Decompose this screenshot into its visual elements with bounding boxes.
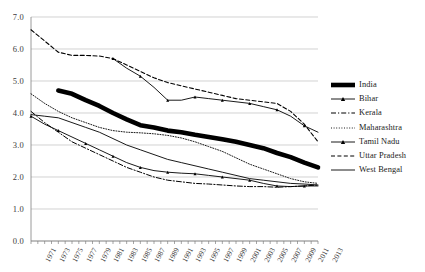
legend-label: India (359, 79, 377, 91)
legend-item: Uttar Pradesh (330, 149, 406, 163)
legend-label: Maharashtra (359, 122, 402, 134)
y-axis-tick-label: 6.0 (2, 44, 24, 54)
legend-line-swatch (330, 164, 356, 176)
y-axis-tick-label: 3.0 (2, 140, 24, 150)
legend-line-swatch (330, 93, 356, 105)
legend-line-swatch (330, 150, 356, 162)
legend-item: Maharashtra (330, 121, 406, 135)
y-axis-tick-label: 7.0 (2, 12, 24, 22)
legend-item: India (330, 78, 406, 92)
legend-label: Uttar Pradesh (359, 150, 406, 162)
legend-item: Bihar (330, 92, 406, 106)
legend-line-swatch (330, 122, 356, 134)
y-axis-tick-label: 0.0 (2, 236, 24, 246)
legend-label: Bihar (359, 93, 378, 105)
legend-label: Tamil Nadu (359, 136, 400, 148)
y-axis-tick-label: 2.0 (2, 172, 24, 182)
legend-item: Kerala (330, 106, 406, 120)
y-axis-tick-label: 5.0 (2, 76, 24, 86)
y-axis-tick-label: 4.0 (2, 108, 24, 118)
y-axis-tick-label: 1.0 (2, 204, 24, 214)
legend-label: West Bengal (359, 164, 402, 176)
legend-item: Tamil Nadu (330, 135, 406, 149)
legend-line-swatch (330, 107, 356, 119)
line-chart: 0.01.02.03.04.05.06.07.0 197119731975197… (0, 0, 425, 272)
legend-item: West Bengal (330, 163, 406, 177)
legend-label: Kerala (359, 107, 382, 119)
chart-legend: IndiaBiharKeralaMaharashtraTamil NaduUtt… (330, 78, 406, 177)
legend-line-swatch (330, 79, 356, 91)
legend-line-swatch (330, 136, 356, 148)
